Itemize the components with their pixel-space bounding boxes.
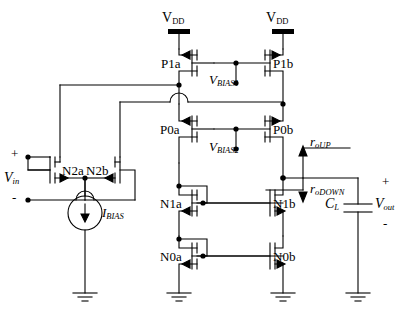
label-N1b: N1b bbox=[273, 196, 295, 212]
ground-cl bbox=[346, 293, 370, 301]
label-ro-down: roDOWN bbox=[310, 181, 344, 197]
ground-n0a bbox=[167, 293, 191, 301]
ro-up-annotation bbox=[299, 146, 350, 178]
label-P1a: P1a bbox=[161, 56, 181, 72]
node-n1a-gate-drain bbox=[176, 183, 181, 188]
vdd-left-symbol bbox=[168, 29, 190, 49]
label-N2b: N2b bbox=[86, 163, 108, 179]
vdd-right-label: VDD bbox=[266, 10, 288, 26]
label-vbias2: VBIAS2 bbox=[209, 139, 239, 155]
load-capacitor bbox=[344, 178, 372, 293]
circuit-diagram: VDD VDD P1a P1b P0a P0b N2a N2b N1a N1b … bbox=[0, 0, 409, 317]
label-N2a: N2a bbox=[62, 163, 84, 179]
label-vout: Vout bbox=[375, 196, 394, 212]
transistor-N1a bbox=[179, 163, 207, 236]
label-N0b: N0b bbox=[273, 249, 295, 265]
label-P0a: P0a bbox=[160, 122, 180, 138]
schematic-canvas bbox=[0, 0, 409, 317]
current-source-IBIAS bbox=[68, 178, 102, 293]
label-P1b: P1b bbox=[273, 56, 293, 72]
vin-plus-sign: + bbox=[11, 146, 18, 162]
ground-bias bbox=[73, 293, 97, 301]
vout-minus-sign: - bbox=[383, 216, 387, 232]
ground-n0b bbox=[271, 293, 295, 301]
vdd-right-symbol bbox=[272, 29, 294, 49]
label-P0b: P0b bbox=[273, 122, 293, 138]
label-N0a: N0a bbox=[160, 249, 182, 265]
n2b-drain-wire-right bbox=[188, 102, 283, 104]
transistor-N0a bbox=[179, 236, 207, 293]
label-vin: Vin bbox=[4, 170, 19, 186]
label-N1a: N1a bbox=[160, 196, 182, 212]
node-n0a-gate-drain bbox=[176, 236, 181, 241]
label-cl: CL bbox=[325, 196, 339, 212]
node-p1b-drain bbox=[280, 101, 285, 106]
label-ibias: IBIAS bbox=[102, 205, 124, 221]
vout-plus-sign: + bbox=[382, 174, 389, 190]
label-vbias1: VBIAS1 bbox=[209, 72, 239, 88]
label-ro-up: roUP bbox=[310, 134, 331, 150]
vdd-left-label: VDD bbox=[162, 10, 184, 26]
vin-minus-sign: - bbox=[12, 190, 16, 206]
